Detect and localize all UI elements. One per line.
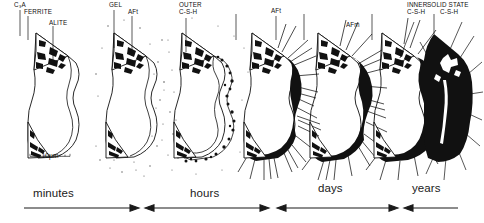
ferrite-c3a-wedge	[316, 33, 350, 74]
scale-bar-ruler	[18, 153, 82, 158]
panel-7-drawing	[412, 0, 484, 185]
label-outer-csh-line2: C-S-H	[179, 8, 197, 15]
ferrite-spike-lower	[174, 122, 196, 158]
figure-canvas: C₃A FERRITE ALITE 10µm	[0, 0, 484, 223]
ferrite-spike-lower	[244, 122, 266, 158]
panel-7-solid-state-csh: SOLID STATE C-S-H	[412, 0, 484, 185]
ferrite-c3a-wedge	[380, 33, 414, 74]
label-ferrite: FERRITE	[24, 8, 52, 15]
panel-3-outer-csh: OUTER C-S-H	[152, 0, 222, 185]
ferrite-c3a-wedge	[250, 33, 284, 74]
scale-bar: 10µm	[18, 152, 82, 159]
panel-1-unhydrated: C₃A FERRITE ALITE 10µm	[6, 0, 76, 185]
ferrite-spike-lower	[374, 122, 396, 158]
panel-2-gel: GEL AFt	[84, 0, 154, 185]
label-aft-early: AFt	[128, 8, 138, 15]
ferrite-spike-lower	[310, 122, 332, 158]
label-alite: ALITE	[49, 19, 67, 26]
time-label-minutes: minutes	[33, 187, 74, 199]
ferrite-c3a-wedge	[180, 33, 214, 74]
label-solid-state-csh-line2: C-S-H	[440, 8, 458, 15]
label-gel: GEL	[109, 1, 122, 8]
time-label-hours: hours	[190, 187, 219, 199]
time-label-days: days	[318, 182, 343, 194]
time-axis: minutes hours days years	[0, 185, 484, 223]
panel-5-afm: AFm	[288, 0, 358, 185]
ferrite-spike-lower	[106, 122, 128, 158]
panel-4-aft: AFt	[222, 0, 292, 185]
label-aft: AFt	[271, 7, 281, 14]
time-label-years: years	[412, 182, 441, 194]
ferrite-c3a-wedge	[34, 33, 68, 74]
ferrite-c3a-wedge	[112, 33, 146, 74]
